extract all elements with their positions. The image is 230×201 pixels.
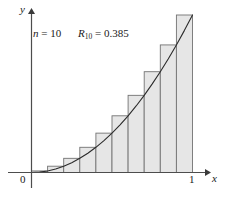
annotation-n: n = 10 bbox=[33, 27, 61, 39]
x-tick-label-1: 1 bbox=[189, 173, 195, 185]
y-axis-arrowhead bbox=[28, 8, 35, 14]
x-axis-arrowhead bbox=[205, 169, 211, 176]
origin-label: 0 bbox=[20, 173, 26, 185]
annotation-r-value: 0.385 bbox=[104, 27, 129, 39]
riemann-rectangle bbox=[160, 45, 176, 173]
riemann-rectangle bbox=[144, 72, 160, 173]
riemann-sum-figure: n = 10 R10 = 0.385 y x 0 1 bbox=[0, 0, 230, 201]
riemann-rectangle bbox=[96, 133, 112, 172]
annotation-n-eq: = bbox=[39, 27, 51, 39]
y-axis-label: y bbox=[20, 3, 25, 15]
riemann-rectangle bbox=[80, 147, 96, 172]
annotation-r-eq: = bbox=[92, 27, 104, 39]
annotation-riemann-sum: R10 = 0.385 bbox=[78, 27, 129, 41]
annotation-r-var: R bbox=[78, 27, 85, 39]
riemann-rectangle bbox=[176, 15, 192, 173]
riemann-rectangle bbox=[128, 95, 144, 172]
annotation-n-value: 10 bbox=[50, 27, 61, 39]
x-axis-label: x bbox=[212, 172, 217, 184]
